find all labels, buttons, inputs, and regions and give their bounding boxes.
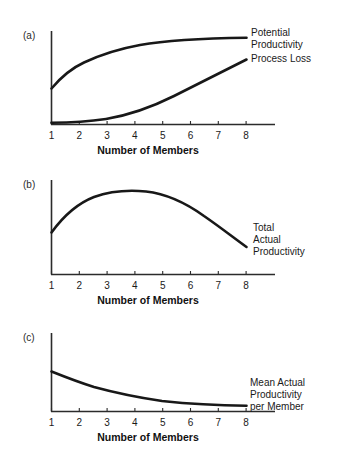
- tick-label: 3: [104, 417, 110, 428]
- panel-a-label-potential-productivity-line2: Productivity: [251, 39, 303, 50]
- tick-label: 4: [132, 280, 138, 291]
- panel-a: (a) 1 2 3 4 5 6 7 8 Number of Members: [23, 27, 311, 156]
- panel-a-label-process-loss: Process Loss: [251, 53, 311, 64]
- panel-a-x-axis-title: Number of Members: [97, 144, 199, 156]
- panel-c-label-mean-actual-line3: per Member: [250, 401, 305, 412]
- panel-b-label: (b): [23, 179, 35, 190]
- tick-label: 7: [216, 417, 222, 428]
- tick-label: 5: [160, 130, 166, 141]
- tick-label: 1: [49, 417, 55, 428]
- tick-label: 4: [132, 417, 138, 428]
- panel-c-tick-labels: 1 2 3 4 5 6 7 8: [49, 417, 250, 428]
- panel-a-curve-potential-productivity: [52, 38, 247, 89]
- tick-label: 1: [49, 130, 55, 141]
- tick-label: 2: [77, 280, 83, 291]
- panel-b-label-total-actual-productivity-line2: Actual: [253, 234, 281, 245]
- panel-a-label: (a): [23, 30, 35, 41]
- panel-b-x-axis-title: Number of Members: [97, 294, 199, 306]
- tick-label: 5: [160, 417, 166, 428]
- tick-label: 8: [243, 280, 249, 291]
- tick-label: 8: [243, 417, 249, 428]
- tick-label: 6: [188, 280, 194, 291]
- tick-label: 7: [216, 280, 222, 291]
- panel-b-label-total-actual-productivity-line3: Productivity: [253, 246, 305, 257]
- panel-c-label-mean-actual-line2: Productivity: [250, 389, 302, 400]
- tick-label: 2: [77, 130, 83, 141]
- tick-label: 7: [216, 130, 222, 141]
- tick-label: 3: [104, 130, 110, 141]
- panel-c-curve-mean-actual-productivity: [52, 372, 247, 406]
- panel-b: (b) 1 2 3 4 5 6 7 8 Number of Members To…: [23, 179, 305, 306]
- panel-b-label-total-actual-productivity-line1: Total: [253, 222, 274, 233]
- panel-a-curve-process-loss: [52, 60, 247, 123]
- tick-label: 1: [49, 280, 55, 291]
- panel-c: (c) 1 2 3 4 5 6 7 8 Number of Members Me…: [23, 332, 305, 443]
- tick-label: 3: [104, 280, 110, 291]
- tick-label: 8: [243, 130, 249, 141]
- three-panel-group-productivity-figure: (a) 1 2 3 4 5 6 7 8 Number of Members: [0, 0, 337, 470]
- panel-b-curve-total-actual-productivity: [52, 191, 247, 247]
- panel-b-tick-labels: 1 2 3 4 5 6 7 8: [49, 280, 250, 291]
- panel-c-label: (c): [23, 332, 35, 343]
- tick-label: 4: [132, 130, 138, 141]
- panel-c-label-mean-actual-line1: Mean Actual: [250, 377, 305, 388]
- tick-label: 5: [160, 280, 166, 291]
- tick-label: 6: [188, 130, 194, 141]
- panel-a-label-potential-productivity-line1: Potential: [251, 27, 290, 38]
- tick-label: 2: [77, 417, 83, 428]
- panel-a-tick-labels: 1 2 3 4 5 6 7 8: [49, 130, 250, 141]
- panel-c-x-axis-title: Number of Members: [97, 431, 199, 443]
- tick-label: 6: [188, 417, 194, 428]
